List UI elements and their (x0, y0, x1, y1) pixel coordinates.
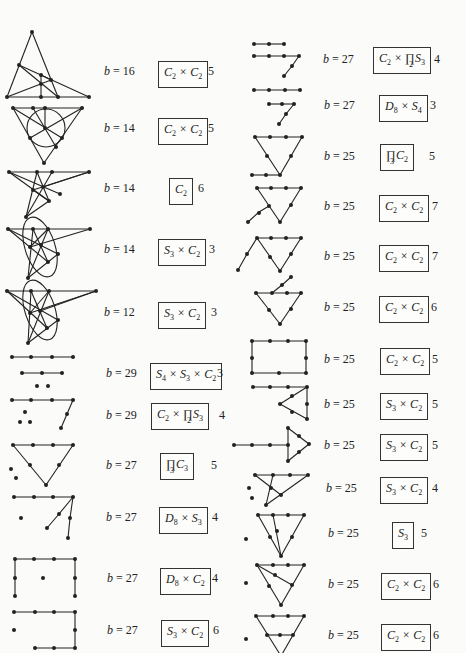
b-value: b = 25 (324, 300, 355, 315)
count: 4 (432, 481, 438, 496)
count: 6 (433, 628, 439, 643)
group-label: S3 × C2 (380, 477, 428, 504)
group-label: S3 × C2 (380, 393, 428, 420)
count: 6 (431, 300, 437, 315)
b-value: b = 25 (328, 526, 359, 541)
count: 5 (211, 458, 217, 473)
b-value: b = 25 (328, 577, 359, 592)
count: 5 (208, 121, 214, 136)
count: 6 (433, 577, 439, 592)
b-value: b = 12 (104, 305, 135, 320)
group-label: C2 × C2 (381, 573, 431, 600)
graph-diagram (0, 280, 100, 346)
group-label: ∏3C2 (380, 144, 414, 171)
graph-diagram (250, 38, 310, 80)
b-value: b = 27 (106, 458, 137, 473)
graph-diagram (0, 25, 100, 105)
b-value: b = 27 (106, 510, 137, 525)
graph-diagram (245, 510, 310, 560)
b-value: b = 25 (324, 397, 355, 412)
b-value: b = 25 (324, 249, 355, 264)
count: 4 (212, 510, 218, 525)
count: 6 (198, 181, 204, 196)
group-label: C2 × C2 (158, 61, 208, 88)
count: 3 (211, 305, 217, 320)
group-label: C2 × ∏2S3 (373, 47, 431, 74)
group-label: D8 × C2 (160, 568, 211, 595)
group-label: C2 × ∏2S3 (151, 403, 209, 430)
group-label: ∏3C3 (160, 453, 194, 480)
graph-diagram (250, 84, 310, 128)
group-label: S3 (392, 522, 414, 549)
graph-diagram (0, 218, 100, 280)
count: 3 (209, 242, 215, 257)
graph-diagram (0, 605, 100, 653)
b-value: b = 25 (328, 628, 359, 643)
count: 3 (430, 98, 436, 113)
group-label: S4 × S3 × C2 (150, 363, 222, 390)
count: 4 (219, 408, 225, 423)
b-value: b = 14 (104, 242, 135, 257)
graph-diagram (250, 273, 310, 325)
group-label: C2 × C2 (379, 296, 429, 323)
graph-diagram (0, 440, 100, 490)
count: 5 (432, 397, 438, 412)
count: 5 (432, 352, 438, 367)
b-value: b = 25 (324, 438, 355, 453)
b-value: b = 27 (324, 98, 355, 113)
graph-diagram (245, 560, 310, 608)
b-value: b = 27 (107, 571, 138, 586)
graph-diagram (245, 183, 310, 227)
count: 5 (421, 526, 427, 541)
count: 7 (432, 249, 438, 264)
b-value: b = 14 (104, 121, 135, 136)
b-value: b = 14 (104, 181, 135, 196)
group-label: S3 × C2 (161, 620, 209, 647)
graph-diagram (245, 470, 310, 510)
b-value: b = 27 (323, 52, 354, 67)
group-label: C2 × C2 (158, 118, 208, 145)
group-label: C2 × C2 (380, 348, 430, 375)
page: { "left_column": [ {"b": "16", "group": … (0, 0, 466, 653)
graph-diagram (230, 424, 315, 466)
b-value: b = 25 (326, 481, 357, 496)
count: 6 (213, 623, 219, 638)
group-label: C2 × C2 (379, 245, 429, 272)
b-value: b = 25 (324, 352, 355, 367)
b-value: b = 27 (107, 623, 138, 638)
count: 7 (432, 199, 438, 214)
b-value: b = 16 (104, 64, 135, 79)
graph-diagram (0, 352, 100, 392)
group-label: C2 × C2 (381, 624, 431, 651)
count: 4 (434, 52, 440, 67)
graph-diagram (0, 103, 100, 167)
group-label: S3 × C2 (158, 239, 206, 266)
count: 5 (208, 64, 214, 79)
count: 4 (212, 571, 218, 586)
b-value: b = 25 (324, 149, 355, 164)
count: 5 (429, 149, 435, 164)
group-label: D8 × S3 (159, 507, 208, 534)
graph-diagram (0, 492, 100, 542)
graph-diagram (250, 132, 310, 180)
b-value: b = 29 (106, 366, 137, 381)
group-label: D8 × S4 (379, 95, 428, 122)
count: 5 (432, 438, 438, 453)
graph-diagram (0, 553, 100, 601)
group-label: S3 × C2 (158, 302, 206, 329)
graph-diagram (0, 393, 100, 433)
b-value: b = 29 (106, 408, 137, 423)
group-label: S3 × C2 (380, 434, 428, 461)
group-label: C2 × C2 (379, 195, 429, 222)
group-label: C2 (169, 178, 193, 205)
graph-diagram (250, 381, 310, 423)
count: 3 (217, 366, 223, 381)
b-value: b = 25 (324, 199, 355, 214)
graph-diagram (245, 610, 310, 653)
graph-diagram (250, 336, 310, 378)
